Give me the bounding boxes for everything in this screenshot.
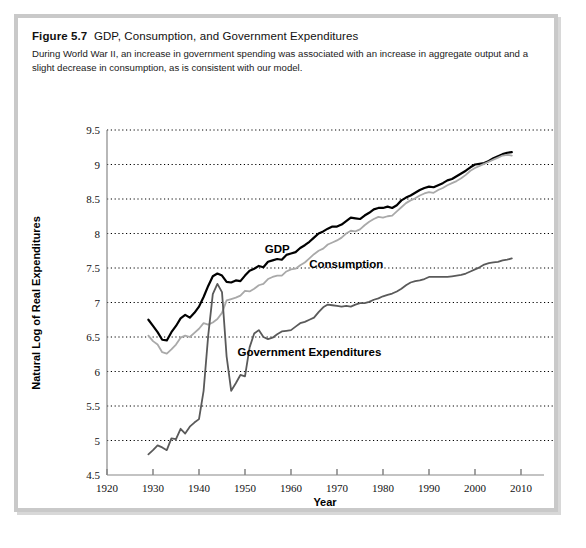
- data-series: [148, 152, 511, 454]
- x-tick-label: 1960: [280, 482, 303, 494]
- x-tick-label: 2010: [510, 482, 533, 494]
- x-tick-label: 2000: [464, 482, 487, 494]
- y-tick-label: 8: [95, 228, 101, 240]
- figure-number: Figure 5.7: [32, 30, 87, 42]
- figure-caption-block: Figure 5.7 GDP, Consumption, and Governm…: [32, 30, 544, 75]
- series-label: Consumption: [309, 258, 383, 270]
- x-tick-label: 1970: [326, 482, 349, 494]
- y-tick-label: 6.5: [86, 331, 100, 343]
- x-axis-ticks: 1920193019401950196019701980199020002010: [96, 469, 533, 494]
- x-tick-label: 1980: [372, 482, 395, 494]
- figure-description: During World War II, an increase in gove…: [32, 47, 544, 75]
- series-line-consumption: [148, 155, 511, 354]
- x-tick-label: 1940: [188, 482, 211, 494]
- y-tick-label: 5.5: [86, 400, 100, 412]
- y-tick-label: 6: [95, 366, 101, 378]
- y-tick-label: 9: [95, 159, 101, 171]
- line-chart: 4.555.566.577.588.599.5 1920193019401950…: [18, 78, 554, 508]
- y-tick-label: 4.5: [86, 469, 100, 481]
- series-label: Government Expenditures: [238, 346, 382, 358]
- x-axis-title: Year: [313, 496, 337, 508]
- x-tick-label: 1990: [418, 482, 441, 494]
- figure-frame: Figure 5.7 GDP, Consumption, and Governm…: [14, 14, 558, 512]
- x-tick-label: 1920: [96, 482, 119, 494]
- gridlines: [107, 130, 554, 441]
- series-label: GDP: [265, 243, 290, 255]
- x-tick-label: 1930: [142, 482, 165, 494]
- figure-title: Figure 5.7 GDP, Consumption, and Governm…: [32, 30, 544, 42]
- y-tick-label: 9.5: [86, 124, 100, 136]
- y-tick-label: 7.5: [86, 262, 100, 274]
- x-tick-label: 1950: [234, 482, 257, 494]
- y-tick-label: 7: [95, 297, 101, 309]
- figure-title-text: GDP, Consumption, and Government Expendi…: [94, 30, 358, 42]
- y-axis-ticks: 4.555.566.577.588.599.5: [86, 124, 100, 481]
- series-annotations: GDPConsumptionGovernment Expenditures: [238, 243, 384, 359]
- y-axis-title: Natural Log of Real Expenditures: [30, 216, 42, 390]
- y-tick-label: 5: [95, 435, 101, 447]
- chart-plot-area: 4.555.566.577.588.599.5 1920193019401950…: [18, 78, 554, 508]
- y-tick-label: 8.5: [86, 193, 100, 205]
